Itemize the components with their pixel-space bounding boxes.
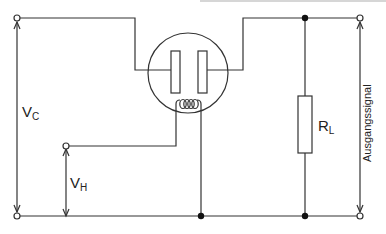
wire-vc-to-left-plate xyxy=(20,18,171,70)
sensor-plate-left xyxy=(171,51,180,93)
output-signal-label: Ausgangssignal xyxy=(361,84,373,162)
rl-label: RL xyxy=(318,118,334,136)
sensor-plate-right xyxy=(198,51,207,93)
heater-coil-icon xyxy=(176,100,201,109)
vh-label: VH xyxy=(70,175,87,193)
load-resistor xyxy=(298,96,312,153)
wire-heater-left xyxy=(69,108,176,146)
terminal-output-top xyxy=(357,15,363,21)
terminal-output-bottom xyxy=(357,213,363,219)
junction-bottom-resistor xyxy=(302,213,308,219)
junction-bottom-heater xyxy=(198,213,204,219)
junction-top xyxy=(302,15,308,21)
terminal-vh-top xyxy=(63,143,69,149)
wire-right-plate-to-output xyxy=(207,18,357,70)
terminal-vc-bottom xyxy=(14,213,20,219)
vc-label: VC xyxy=(22,104,39,122)
terminal-vc-top xyxy=(14,15,20,21)
